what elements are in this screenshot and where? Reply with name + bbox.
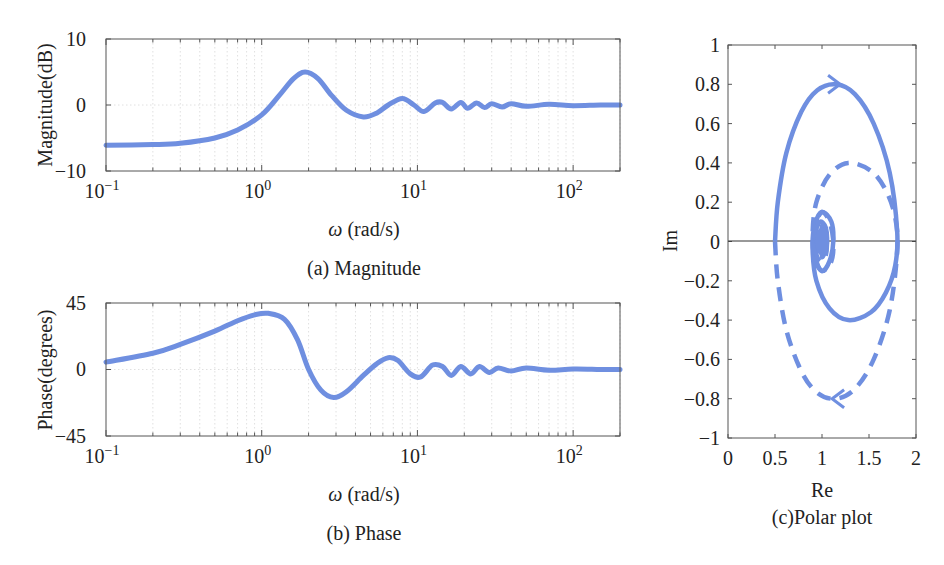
y-tick-label: 0.8 [695, 73, 720, 95]
omega-symbol: ω [328, 218, 342, 240]
x-tick-label: 100 [244, 443, 271, 467]
x-tick-label: 102 [556, 443, 583, 467]
y-tick-label: 1 [710, 34, 720, 56]
mag-ytick-0: 0 [76, 94, 86, 116]
y-tick-label: 0 [710, 231, 720, 253]
x-tick-label: 10−1 [85, 443, 120, 467]
xlabel-unit: (rad/s) [347, 483, 399, 506]
phase-ylabel: Phase(degrees) [34, 309, 57, 430]
y-tick-label: −0.4 [684, 309, 720, 331]
phase-xlabel: ω (rad/s) [328, 483, 399, 506]
x-tick-label: 1 [817, 447, 827, 469]
y-tick-label: −0.8 [684, 388, 720, 410]
x-tick-label: 100 [244, 178, 271, 202]
y-tick-label: 0.2 [695, 191, 720, 213]
phase-panel: 45 0 −45 10−1100101102 Phase(degrees) ω … [34, 292, 620, 545]
magnitude-caption: (a) Magnitude [307, 257, 421, 280]
x-tick-label: 0.5 [763, 447, 788, 469]
x-tick-label: 1.5 [857, 447, 882, 469]
magnitude-panel: 10 0 −10 10−1100101102 Magnitude(dB) ω (… [34, 28, 620, 280]
y-tick-label: −1 [699, 427, 720, 449]
phase-xtick-labels: 10−1100101102 [85, 443, 583, 467]
magnitude-xtick-labels: 10−1100101102 [85, 178, 583, 202]
mag-ytick-neg10: −10 [55, 160, 86, 182]
figure: 10 0 −10 10−1100101102 Magnitude(dB) ω (… [0, 0, 944, 565]
polar-panel: 10.80.60.40.20−0.2−0.4−0.6−0.8−1 00.511.… [659, 34, 921, 529]
phase-ytick-neg45: −45 [55, 425, 86, 447]
y-tick-label: −0.6 [684, 348, 720, 370]
polar-ytick-labels: 10.80.60.40.20−0.2−0.4−0.6−0.8−1 [684, 34, 720, 449]
mag-ytick-10: 10 [66, 28, 86, 50]
polar-dashed-curve [775, 163, 898, 399]
y-tick-label: 0.4 [695, 152, 720, 174]
magnitude-ylabel: Magnitude(dB) [34, 43, 57, 166]
x-tick-label: 10−1 [85, 178, 120, 202]
polar-xlabel: Re [811, 479, 833, 501]
polar-convergence-point [815, 228, 829, 256]
y-tick-label: −0.2 [684, 270, 720, 292]
polar-caption: (c)Polar plot [772, 506, 873, 529]
phase-ytick-0: 0 [76, 358, 86, 380]
polar-xtick-labels: 00.511.52 [723, 447, 921, 469]
magnitude-xlabel: ω (rad/s) [328, 218, 399, 241]
x-tick-label: 101 [400, 443, 427, 467]
omega-symbol: ω [328, 483, 342, 505]
x-tick-label: 2 [911, 447, 921, 469]
xlabel-unit: (rad/s) [347, 218, 399, 241]
x-tick-label: 101 [400, 178, 427, 202]
polar-ylabel: Im [659, 229, 681, 252]
magnitude-curve [106, 72, 620, 145]
polar-direction-arrows [828, 75, 844, 407]
polar-solid-curve [775, 84, 898, 320]
x-tick-label: 102 [556, 178, 583, 202]
phase-caption: (b) Phase [327, 522, 402, 545]
x-tick-label: 0 [723, 447, 733, 469]
phase-ytick-45: 45 [66, 292, 86, 314]
y-tick-label: 0.6 [695, 113, 720, 135]
phase-curve [106, 313, 620, 398]
